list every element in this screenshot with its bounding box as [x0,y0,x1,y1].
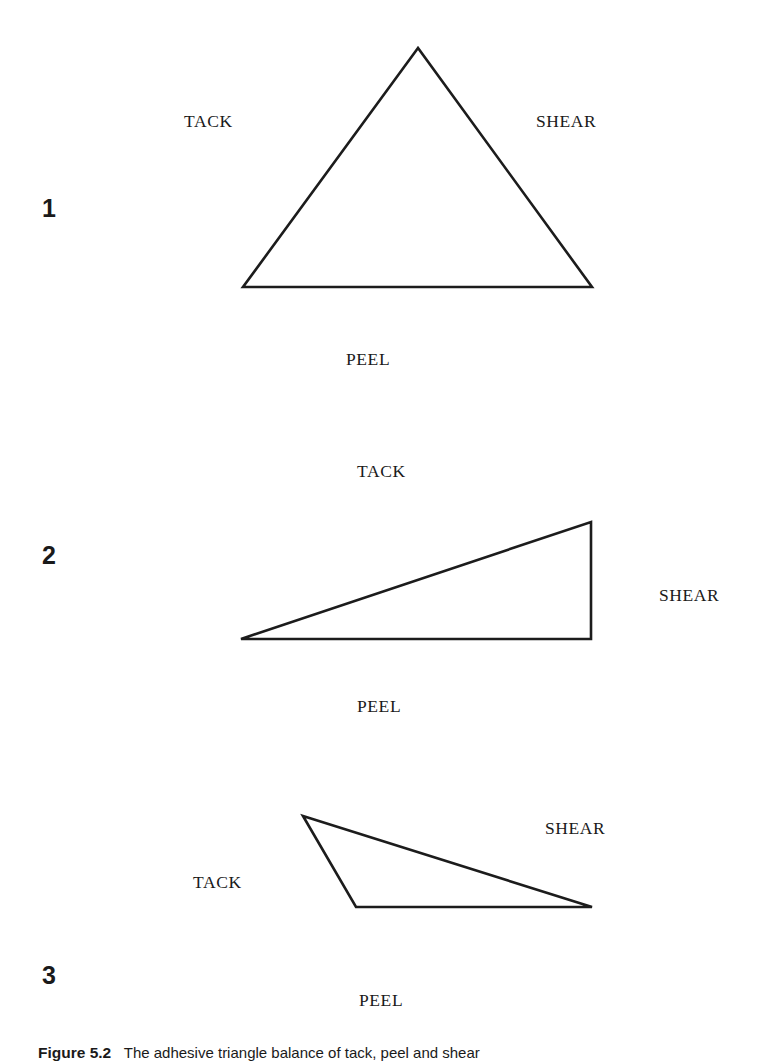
figure-caption: Figure 5.2 The adhesive triangle balance… [38,1044,758,1062]
panel-2-label-shear: SHEAR [659,587,719,605]
figure-caption-text: The adhesive triangle balance of tack, p… [124,1044,480,1061]
panel-2-label-tack: TACK [357,463,406,481]
panel-1: 1 TACK SHEAR PEEL [0,0,771,400]
panel-3-label-shear: SHEAR [545,820,605,838]
panel-1-triangle-graphic [0,0,771,400]
panel-1-label-tack: TACK [184,113,233,131]
panel-2-label-peel: PEEL [357,698,401,716]
panel-1-label-shear: SHEAR [536,113,596,131]
figure-caption-label: Figure 5.2 [38,1044,111,1061]
panel-2: 2 TACK SHEAR PEEL [0,400,771,750]
panel-3: 3 SHEAR TACK PEEL Figure 5.2 The adhesiv… [0,750,771,1052]
panel-3-label-tack: TACK [193,874,242,892]
panel-1-label-peel: PEEL [346,351,390,369]
panel-3-label-peel: PEEL [359,992,403,1010]
